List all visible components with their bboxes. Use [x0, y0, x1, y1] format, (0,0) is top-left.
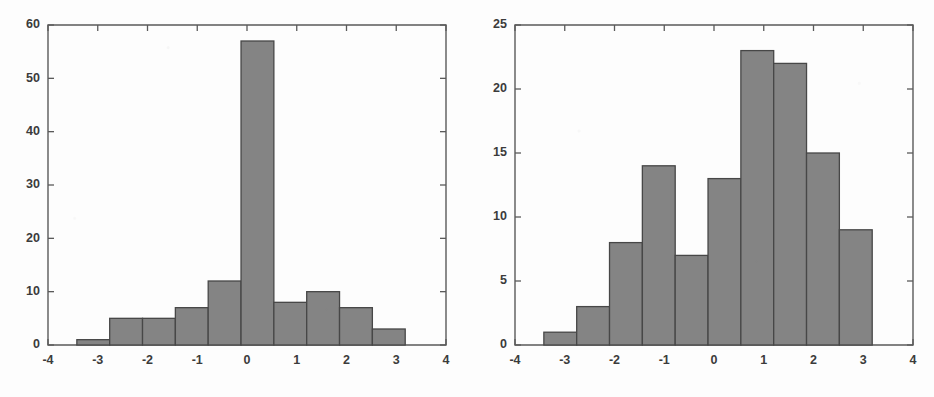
- histogram-bar: [208, 281, 241, 345]
- y-tick-label-right: 0: [500, 337, 507, 351]
- x-tick-label-right: 1: [760, 353, 767, 367]
- x-tick-label-left: 4: [443, 353, 450, 367]
- y-tick-label-right: 15: [493, 145, 507, 159]
- x-tick-label-right: 4: [910, 353, 917, 367]
- bar-group-right: [544, 51, 872, 345]
- x-tick-label-right: 2: [810, 353, 817, 367]
- x-tick-label-left: -3: [92, 353, 103, 367]
- x-tick-label-left: 1: [293, 353, 300, 367]
- y-tick-label-right: 10: [493, 209, 507, 223]
- x-tick-label-right: -2: [609, 353, 620, 367]
- x-tick-label-left: -4: [42, 353, 53, 367]
- histogram-bar: [274, 302, 307, 345]
- histogram-panel-left: -4-3-2-1012340102030405060: [0, 0, 467, 397]
- histogram-bar: [307, 292, 340, 345]
- x-tick-label-left: -2: [142, 353, 153, 367]
- y-tick-label-left: 10: [26, 284, 40, 298]
- histogram-panel-right: -4-3-2-1012340510152025: [467, 0, 934, 397]
- y-tick-label-left: 40: [26, 124, 40, 138]
- y-tick-label-right: 25: [493, 17, 507, 31]
- x-tick-label-right: 3: [860, 353, 867, 367]
- histogram-bar: [642, 166, 675, 345]
- y-tick-label-left: 60: [26, 17, 40, 31]
- histogram-bar: [741, 51, 774, 345]
- histogram-plot-right: -4-3-2-1012340510152025: [467, 0, 934, 397]
- x-tick-label-right: -3: [559, 353, 570, 367]
- histogram-bar: [544, 332, 577, 345]
- histogram-bar: [774, 63, 807, 345]
- x-tick-label-right: -1: [659, 353, 670, 367]
- histogram-bar: [175, 308, 208, 345]
- histogram-bar: [143, 318, 176, 345]
- histogram-bar: [708, 179, 741, 345]
- y-tick-label-left: 20: [26, 231, 40, 245]
- y-tick-label-left: 50: [26, 71, 40, 85]
- y-tick-label-left: 30: [26, 177, 40, 191]
- histogram-bar: [675, 255, 708, 345]
- x-tick-label-right: 0: [711, 353, 718, 367]
- histogram-bar: [807, 153, 840, 345]
- histogram-bar: [340, 308, 373, 345]
- histogram-bar: [610, 243, 643, 345]
- x-tick-label-left: 2: [343, 353, 350, 367]
- histogram-figure: -4-3-2-1012340102030405060 -4-3-2-101234…: [0, 0, 934, 397]
- x-tick-label-left: 0: [244, 353, 251, 367]
- x-tick-label-left: -1: [192, 353, 203, 367]
- histogram-bar: [110, 318, 143, 345]
- x-tick-label-left: 3: [393, 353, 400, 367]
- histogram-plot-left: -4-3-2-1012340102030405060: [0, 0, 467, 397]
- bar-group-left: [77, 41, 405, 345]
- histogram-bar: [241, 41, 274, 345]
- histogram-bar: [577, 307, 610, 345]
- y-tick-label-right: 20: [493, 81, 507, 95]
- histogram-bar: [372, 329, 405, 345]
- histogram-bar: [839, 230, 872, 345]
- y-tick-label-right: 5: [500, 273, 507, 287]
- y-tick-label-left: 0: [33, 337, 40, 351]
- histogram-bar: [77, 340, 110, 345]
- x-tick-label-right: -4: [509, 353, 520, 367]
